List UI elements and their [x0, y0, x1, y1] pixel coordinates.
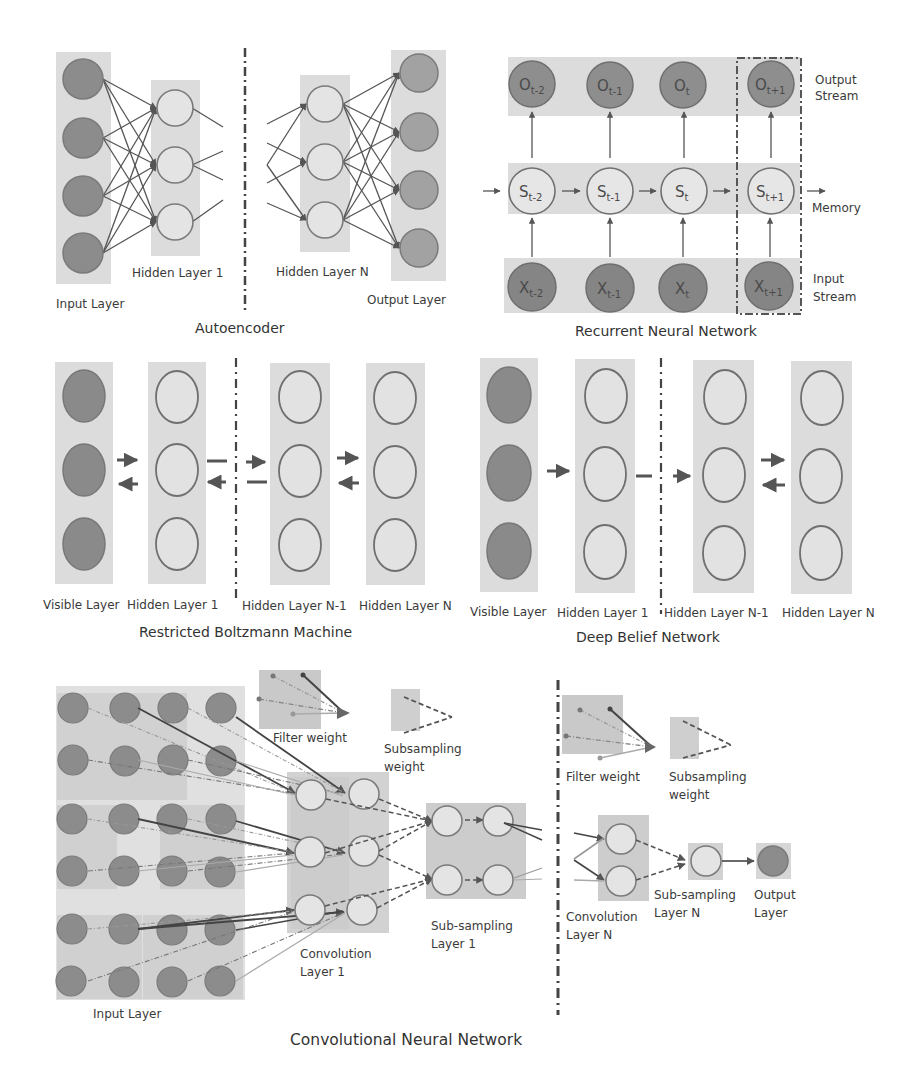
ae-label-output-layer: Output Layer: [367, 293, 446, 307]
dbn-visible-node: [487, 445, 531, 501]
dbn-visible-node: [487, 523, 531, 579]
cnn-panel: Filter weight Subsampling weight Convolu…: [56, 670, 796, 1049]
rbm-hidden-node: [279, 519, 321, 571]
dbn-hidden-node: [584, 525, 626, 579]
cnn-subsampling-weight-box: [391, 689, 420, 731]
cnn-label-subsampling-layer-n-a: Sub-sampling: [654, 888, 736, 902]
ae-label-hidden-layer-1: Hidden Layer 1: [132, 266, 223, 280]
cnn-output-node: [758, 846, 788, 876]
rbm-hidden-node: [156, 444, 198, 496]
rbm-visible-node: [63, 518, 105, 570]
ae-title: Autoencoder: [195, 320, 285, 336]
ae-output-node: [400, 171, 438, 209]
ae-output-node: [400, 229, 438, 267]
dbn-visible-node: [487, 367, 531, 423]
dbn-hidden-node: [800, 526, 842, 580]
rnn-output-node: [587, 62, 633, 108]
dbn-title: Deep Belief Network: [576, 629, 721, 645]
rbm-hidden-node: [374, 446, 416, 498]
rnn-input-node: [508, 263, 556, 311]
ae-edges-input-hidden: [103, 73, 399, 253]
dbn-hidden-node: [703, 448, 745, 502]
cnn-label-subsampling-layer-n-b: Layer N: [654, 906, 700, 920]
cnn-filter-weight-box: [259, 670, 321, 729]
rbm-hidden-node: [156, 518, 198, 570]
rnn-label-input-stream-1: Input: [813, 272, 844, 286]
rbm-title: Restricted Boltzmann Machine: [139, 624, 352, 640]
rnn-label-output-stream-2: Stream: [815, 89, 858, 103]
rnn-input-node: [586, 264, 634, 312]
rbm-hidden-node: [374, 519, 416, 571]
dbn-label-hidden-layer-n-1: Hidden Layer N-1: [664, 606, 769, 620]
cnn-label-subsampling-layer-1-a: Sub-sampling: [431, 919, 513, 933]
cnn-filter-weight-box-right: [562, 695, 623, 754]
cnn-subsampling-weight-box-right: [670, 717, 699, 759]
rnn-input-node: [745, 262, 793, 310]
ae-hidden-node: [157, 90, 193, 126]
rbm-label-visible-layer: Visible Layer: [43, 598, 120, 612]
rnn-label-input-stream-2: Stream: [813, 290, 856, 304]
rbm-visible-node: [63, 370, 105, 422]
ae-input-node: [63, 118, 103, 158]
ae-hidden-node: [157, 147, 193, 183]
ae-output-node: [400, 113, 438, 151]
ae-hidden-1-nodes: [157, 90, 193, 240]
rbm-hidden-node: [279, 371, 321, 423]
autoencoder-panel: Hidden Layer 1 Input Layer Hidden Layer …: [56, 48, 446, 336]
rnn-title: Recurrent Neural Network: [575, 323, 758, 339]
cnn-label-subsampling-weight-right-2: weight: [669, 788, 710, 802]
rnn-output-node: [509, 61, 555, 107]
rnn-state-node: [509, 168, 555, 214]
cnn-label-output-layer-b: Layer: [754, 906, 788, 920]
rbm-hidden-node: [374, 372, 416, 424]
cnn-label-input-layer: Input Layer: [93, 1007, 161, 1021]
ae-output-node: [400, 54, 438, 92]
ae-label-input-layer: Input Layer: [56, 297, 124, 311]
rbm-visible-node: [63, 444, 105, 496]
rnn-label-output-stream-1: Output: [815, 73, 857, 87]
dbn-hidden-node: [703, 526, 745, 580]
dbn-hidden-node: [704, 370, 746, 424]
dbn-label-hidden-layer-n: Hidden Layer N: [782, 606, 875, 620]
cnn-label-filter-weight: Filter weight: [273, 731, 347, 745]
cnn-label-convolution-layer-1-a: Convolution: [300, 947, 372, 961]
neural-network-diagram: Hidden Layer 1 Input Layer Hidden Layer …: [0, 0, 917, 1073]
ae-hidden-node: [157, 204, 193, 240]
cnn-subsamplingN-node: [691, 846, 721, 876]
cnn-label-output-layer-a: Output: [754, 888, 796, 902]
rnn-state-node: [587, 168, 633, 214]
dbn-label-visible-layer: Visible Layer: [470, 605, 547, 619]
ae-hidden-node: [307, 202, 343, 238]
rbm-hidden-node: [279, 445, 321, 497]
dbn-hidden-node: [800, 449, 842, 503]
cnn-title: Convolutional Neural Network: [290, 1031, 522, 1049]
dbn-hidden-node: [801, 371, 843, 425]
cnn-label-filter-weight-right: Filter weight: [566, 770, 640, 784]
ae-input-node: [63, 176, 103, 216]
dbn-panel: Visible Layer Hidden Layer 1 Hidden Laye…: [470, 358, 875, 645]
ae-input-node: [63, 233, 103, 273]
ae-input-node: [63, 59, 103, 99]
rbm-panel: Visible Layer Hidden Layer 1 Hidden Laye…: [43, 358, 452, 640]
rnn-label-memory: Memory: [812, 201, 861, 215]
rbm-label-hidden-layer-1: Hidden Layer 1: [127, 598, 218, 612]
dbn-label-hidden-layer-1: Hidden Layer 1: [557, 606, 648, 620]
ae-hidden-n-nodes: [307, 86, 343, 238]
cnn-label-subsampling-weight-1: Subsampling: [384, 742, 462, 756]
cnn-label-convolution-layer-n-b: Layer N: [566, 928, 612, 942]
rnn-panel: Ot-2 Ot-1 Ot Ot+1 St-2 St-1 St St+1 Xt-2…: [483, 57, 861, 339]
dbn-hidden-node: [585, 369, 627, 423]
ae-hidden-node: [307, 144, 343, 180]
rbm-label-hidden-layer-n: Hidden Layer N: [359, 599, 452, 613]
cnn-label-convolution-layer-1-b: Layer 1: [300, 965, 345, 979]
cnn-label-subsampling-weight-2: weight: [384, 760, 425, 774]
rnn-state-node: [748, 168, 794, 214]
cnn-label-convolution-layer-n-a: Convolution: [566, 910, 638, 924]
dbn-hidden-node: [584, 447, 626, 501]
ae-label-hidden-layer-n: Hidden Layer N: [276, 265, 369, 279]
ae-hidden-node: [307, 86, 343, 122]
rbm-label-hidden-layer-n-1: Hidden Layer N-1: [242, 599, 347, 613]
cnn-label-subsampling-layer-1-b: Layer 1: [431, 937, 476, 951]
cnn-label-subsampling-weight-right-1: Subsampling: [669, 770, 747, 784]
rbm-hidden-node: [156, 371, 198, 423]
